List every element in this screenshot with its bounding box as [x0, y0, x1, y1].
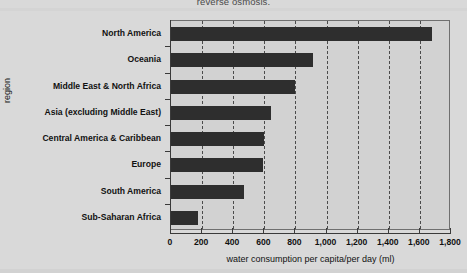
x-axis-tick: [201, 228, 202, 233]
x-axis-tick-label: 1,200: [346, 237, 368, 247]
gridline: [389, 21, 390, 229]
x-axis-line: [170, 233, 451, 234]
category-label: South America: [101, 186, 161, 196]
x-axis-tick: [357, 228, 358, 233]
x-axis-tick-label: 600: [256, 237, 270, 247]
bar: [171, 27, 432, 41]
y-axis-tick: [165, 151, 170, 152]
bar: [171, 185, 244, 199]
y-axis-line: [170, 20, 171, 230]
bar: [171, 53, 313, 67]
gridline: [358, 21, 359, 229]
x-axis-tick: [294, 228, 295, 233]
bar: [171, 80, 295, 94]
scan-artifact-bottom: [0, 269, 467, 273]
y-axis-tick: [165, 204, 170, 205]
x-axis-tick: [388, 228, 389, 233]
category-label: Europe: [131, 159, 161, 169]
x-axis-tick: [232, 228, 233, 233]
y-axis-tick: [165, 73, 170, 74]
x-axis-tick: [263, 228, 264, 233]
bar: [171, 211, 198, 225]
x-axis-tick-label: 1,600: [408, 237, 430, 247]
gridline: [327, 21, 328, 229]
x-axis-tick-label: 1,800: [439, 237, 461, 247]
x-axis-tick-label: 200: [194, 237, 208, 247]
category-label: Asia (excluding Middle East): [44, 107, 161, 117]
category-axis-labels: North AmericaOceaniaMiddle East & North …: [0, 20, 165, 230]
x-axis-title: water consumption per capita/per day (ml…: [170, 254, 451, 264]
category-label: North America: [102, 28, 161, 38]
x-axis-tick-label: 0: [168, 237, 173, 247]
category-label: Oceania: [128, 54, 161, 64]
x-axis-tick-label: 800: [287, 237, 301, 247]
y-axis-tick: [165, 178, 170, 179]
bar: [171, 158, 263, 172]
category-label: Sub-Saharan Africa: [82, 212, 161, 222]
horizontal-bar-chart: region North AmericaOceaniaMiddle East &…: [0, 0, 467, 273]
x-axis-tick-label: 400: [225, 237, 239, 247]
x-axis-tick: [326, 228, 327, 233]
y-axis-tick: [165, 125, 170, 126]
gridline: [264, 21, 265, 229]
x-axis-tick-label: 1,000: [315, 237, 337, 247]
gridline: [295, 21, 296, 229]
x-axis-tick: [419, 228, 420, 233]
x-axis-tick-label: 1,400: [377, 237, 399, 247]
x-axis-tick: [450, 228, 451, 233]
gridline: [420, 21, 421, 229]
category-label: Central America & Caribbean: [42, 133, 161, 143]
category-label: Middle East & North Africa: [53, 81, 161, 91]
plot-area: [170, 20, 450, 230]
y-axis-tick: [165, 99, 170, 100]
x-axis-tick: [170, 228, 171, 233]
y-axis-tick: [165, 46, 170, 47]
bar: [171, 106, 271, 120]
bar: [171, 132, 264, 146]
